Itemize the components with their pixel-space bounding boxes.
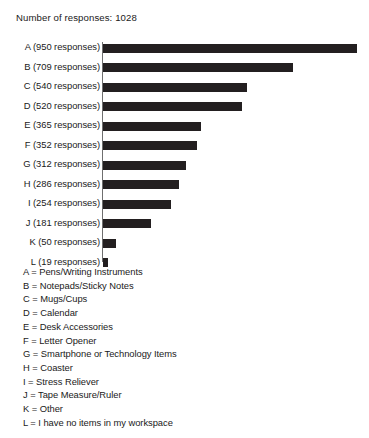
- bar-category-label: E (365 responses): [0, 118, 100, 131]
- bar-row: D (520 responses): [0, 99, 369, 119]
- legend-entry-f: F = Letter Opener: [23, 334, 353, 348]
- bar-row: H (286 responses): [0, 177, 369, 197]
- bar-category-label: I (254 responses): [0, 196, 100, 209]
- legend-entry-g: G = Smartphone or Technology Items: [23, 347, 353, 361]
- bar-a: [103, 44, 357, 53]
- bar-row: K (50 responses): [0, 235, 369, 255]
- bar-row: G (312 responses): [0, 157, 369, 177]
- bar-row: B (709 responses): [0, 60, 369, 80]
- bar-i: [103, 200, 171, 209]
- bar-category-label: A (950 responses): [0, 40, 100, 53]
- bar-chart-figure: Number of responses: 1028 A (950 respons…: [0, 0, 369, 438]
- bar-category-label: D (520 responses): [0, 99, 100, 112]
- legend-entry-d: D = Calendar: [23, 306, 353, 320]
- legend-entry-l: L = I have no items in my workspace: [23, 416, 353, 430]
- bar-h: [103, 180, 179, 189]
- legend-entry-e: E = Desk Accessories: [23, 320, 353, 334]
- bar-row: E (365 responses): [0, 118, 369, 138]
- legend-entry-k: K = Other: [23, 402, 353, 416]
- bar-b: [103, 63, 293, 72]
- bar-row: J (181 responses): [0, 216, 369, 236]
- bar-row: A (950 responses): [0, 40, 369, 60]
- legend-entry-i: I = Stress Reliever: [23, 375, 353, 389]
- bar-category-label: B (709 responses): [0, 60, 100, 73]
- bar-row: C (540 responses): [0, 79, 369, 99]
- bar-category-label: K (50 responses): [0, 235, 100, 248]
- bar-d: [103, 102, 242, 111]
- bar-f: [103, 141, 197, 150]
- bar-row: F (352 responses): [0, 138, 369, 158]
- legend-entry-a: A = Pens/Writing Instruments: [23, 265, 353, 279]
- bar-row: I (254 responses): [0, 196, 369, 216]
- chart-legend: A = Pens/Writing InstrumentsB = Notepads…: [23, 265, 353, 429]
- bar-category-label: J (181 responses): [0, 216, 100, 229]
- bar-j: [103, 219, 151, 228]
- legend-entry-j: J = Tape Measure/Ruler: [23, 388, 353, 402]
- bar-e: [103, 122, 201, 131]
- legend-entry-h: H = Coaster: [23, 361, 353, 375]
- bar-category-label: C (540 responses): [0, 79, 100, 92]
- plot-area: A (950 responses)B (709 responses)C (540…: [0, 38, 369, 264]
- bar-g: [103, 161, 186, 170]
- legend-entry-c: C = Mugs/Cups: [23, 292, 353, 306]
- chart-title: Number of responses: 1028: [16, 12, 137, 23]
- bar-category-label: H (286 responses): [0, 177, 100, 190]
- bar-c: [103, 83, 247, 92]
- bar-category-label: G (312 responses): [0, 157, 100, 170]
- legend-entry-b: B = Notepads/Sticky Notes: [23, 279, 353, 293]
- bar-category-label: F (352 responses): [0, 138, 100, 151]
- bar-k: [103, 239, 116, 248]
